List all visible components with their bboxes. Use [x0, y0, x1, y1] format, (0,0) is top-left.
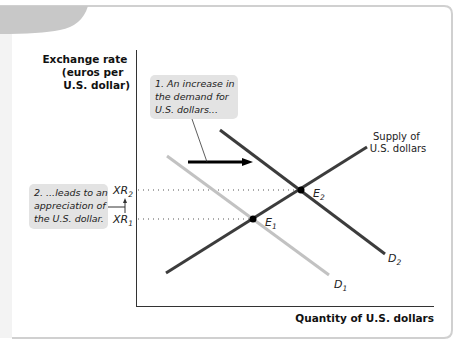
x-axis-label: Quantity of U.S. dollars [295, 312, 434, 324]
diagram-card: Exchange rate (euros per U.S. dollar) Qu… [0, 0, 474, 349]
equilibrium-point-e2 [298, 187, 305, 194]
supply-label: Supply of U.S. dollars [370, 131, 427, 154]
svg-text:2. ...leads to an apprec: 2. ...leads to an appreciation of the U.… [34, 187, 111, 224]
equilibrium-point-e1 [250, 216, 257, 223]
